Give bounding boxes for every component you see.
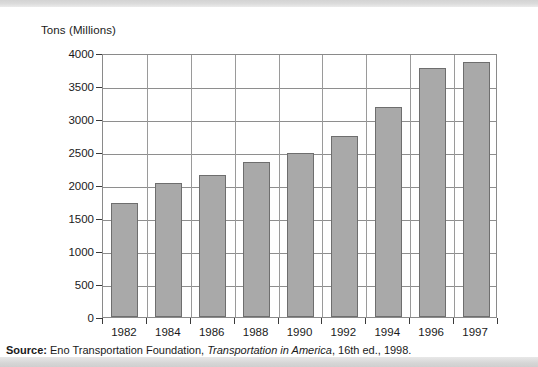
x-axis-label-1986: 1986 — [199, 326, 225, 338]
y-axis-label-2500: 2500 — [42, 147, 94, 159]
bar-1996 — [419, 68, 446, 317]
x-axis-label-1990: 1990 — [287, 326, 313, 338]
y-axis-tick-3500 — [96, 87, 102, 88]
plot-area — [102, 54, 497, 318]
y-axis-tick-1000 — [96, 252, 102, 253]
x-axis-label-1992: 1992 — [331, 326, 357, 338]
x-axis-tick — [321, 318, 322, 324]
y-axis-label-4000: 4000 — [42, 48, 94, 60]
x-axis-label-1994: 1994 — [374, 326, 400, 338]
category-separator — [147, 55, 148, 317]
bar-1992 — [331, 136, 358, 317]
y-axis-label-1500: 1500 — [42, 213, 94, 225]
category-separator — [410, 55, 411, 317]
y-axis-label-0: 0 — [42, 312, 94, 324]
category-separator — [454, 55, 455, 317]
bar-1997 — [463, 62, 490, 317]
page-edge-band-top — [0, 0, 538, 7]
x-axis-label-1984: 1984 — [155, 326, 181, 338]
x-axis-tick — [278, 318, 279, 324]
x-axis-label-1988: 1988 — [243, 326, 269, 338]
y-axis-tick-4000 — [96, 54, 102, 55]
category-separator — [322, 55, 323, 317]
figure-container: Tons (Millions) 050010001500200025003000… — [0, 0, 538, 367]
y-axis-label-500: 500 — [42, 279, 94, 291]
y-axis-tick-3000 — [96, 120, 102, 121]
x-axis-label-1982: 1982 — [111, 326, 137, 338]
y-axis-label-3500: 3500 — [42, 81, 94, 93]
y-axis-label-2000: 2000 — [42, 180, 94, 192]
page-edge-band-bottom — [0, 357, 538, 367]
y-axis-label-3000: 3000 — [42, 114, 94, 126]
source-publisher: Eno Transportation Foundation, — [47, 344, 207, 356]
bar-chart: Tons (Millions) 050010001500200025003000… — [0, 7, 538, 337]
x-axis-label-1997: 1997 — [462, 326, 488, 338]
y-axis-tick-2500 — [96, 153, 102, 154]
x-axis-tick — [453, 318, 454, 324]
x-axis-tick — [190, 318, 191, 324]
category-separator — [279, 55, 280, 317]
category-separator — [235, 55, 236, 317]
bar-1988 — [243, 162, 270, 317]
x-axis-tick — [409, 318, 410, 324]
source-label: Source: — [6, 344, 47, 356]
y-axis-label-1000: 1000 — [42, 246, 94, 258]
x-axis-tick — [365, 318, 366, 324]
category-separator — [366, 55, 367, 317]
x-axis-tick — [234, 318, 235, 324]
x-axis-label-1996: 1996 — [418, 326, 444, 338]
x-axis-tick — [497, 318, 498, 324]
x-axis-tick — [102, 318, 103, 324]
y-axis-labels: 05001000150020002500300035004000 — [36, 7, 94, 337]
y-axis-tick-500 — [96, 285, 102, 286]
category-separator — [191, 55, 192, 317]
bar-1994 — [375, 107, 402, 317]
bar-1982 — [111, 203, 138, 317]
bar-1990 — [287, 153, 314, 317]
y-axis-tick-2000 — [96, 186, 102, 187]
bar-1984 — [155, 183, 182, 317]
x-axis-tick — [146, 318, 147, 324]
y-axis-tick-1500 — [96, 219, 102, 220]
source-note: Source: Eno Transportation Foundation, T… — [6, 344, 411, 356]
bar-1986 — [199, 175, 226, 317]
source-edition: , 16th ed., 1998. — [332, 344, 412, 356]
source-work-title: Transportation in America — [207, 344, 332, 356]
